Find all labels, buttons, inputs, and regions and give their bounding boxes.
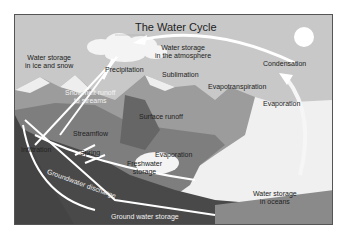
label-evapotranspiration: Evapotranspiration [208,83,266,91]
label-freshwater: Freshwater storage [127,160,162,176]
label-groundwater-storage: Ground water storage [111,213,179,221]
label-condensation: Condensation [263,60,306,68]
label-infiltration: Infiltration [21,146,51,154]
label-oceans: Water storage in oceans [253,190,297,206]
water-cycle-diagram: The Water Cycle Water storage in ice and… [14,14,333,225]
label-streamflow: Streamflow [73,130,108,138]
sun-icon [294,27,314,47]
label-evaporation-ocean: Evaporation [263,100,300,108]
label-ice-snow: Water storage in ice and snow [25,54,73,70]
label-surface-runoff: Surface runoff [139,113,183,121]
label-sublimation: Sublimation [162,71,199,79]
diagram-title: The Water Cycle [135,21,217,33]
label-spring: Spring [80,149,100,157]
label-evaporation-lake: Evaporation [155,151,192,159]
label-precipitation: Precipitation [105,66,144,74]
label-atmosphere: Water storage in the atmosphere [155,44,211,60]
label-snowmelt: Snowmelt runoff to streams [65,89,115,105]
